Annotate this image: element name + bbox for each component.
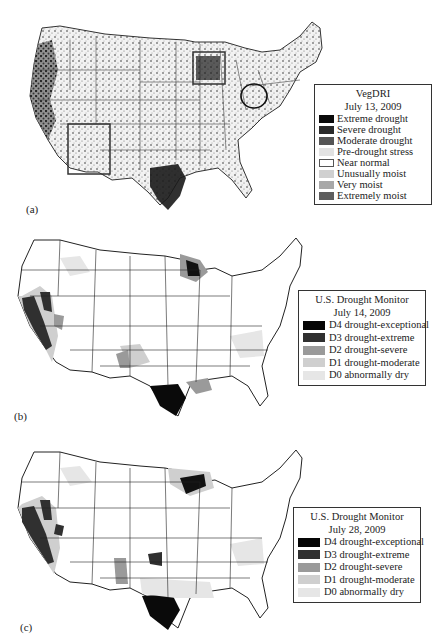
panel-c-drought-monitor-map: (c) U.S. Drought Monitor July 28, 2009 D… xyxy=(0,438,435,639)
legend-swatch xyxy=(298,550,320,559)
panel-label-a: (a) xyxy=(26,203,38,215)
legend-item: D4 drought-exceptional xyxy=(298,536,416,549)
legend-item: Extreme drought xyxy=(319,113,427,124)
legend-title: U.S. Drought Monitor xyxy=(303,293,421,306)
legend-item: D3 drought-extreme xyxy=(303,332,421,345)
legend-item: Near normal xyxy=(319,157,427,168)
legend-item: D0 abnormally dry xyxy=(303,369,421,382)
panel-a-vegdri-map: (a) VegDRI July 13, 2009 Extreme drought… xyxy=(0,0,435,218)
legend-swatch xyxy=(303,333,325,342)
legend-item: D1 drought-moderate xyxy=(298,574,416,587)
legend-drought-monitor-c: U.S. Drought Monitor July 28, 2009 D4 dr… xyxy=(293,507,421,603)
legend-title: U.S. Drought Monitor xyxy=(298,510,416,523)
legend-swatch xyxy=(303,371,325,380)
legend-swatch xyxy=(319,115,334,123)
legend-swatch xyxy=(303,358,325,367)
legend-swatch xyxy=(303,321,325,330)
legend-item: D1 drought-moderate xyxy=(303,357,421,370)
legend-item: Moderate drought xyxy=(319,135,427,146)
legend-item: Very moist xyxy=(319,179,427,190)
panel-label-b: (b) xyxy=(14,410,27,422)
legend-swatch xyxy=(319,126,334,134)
legend-swatch xyxy=(319,159,334,167)
legend-vegdri: VegDRI July 13, 2009 Extreme drought Sev… xyxy=(314,84,432,205)
legend-title: VegDRI xyxy=(319,87,427,100)
legend-item: Severe drought xyxy=(319,124,427,135)
legend-swatch xyxy=(298,588,320,597)
legend-item: Unusually moist xyxy=(319,168,427,179)
legend-item: Pre-drought stress xyxy=(319,146,427,157)
panel-label-c: (c) xyxy=(20,621,32,633)
legend-item: D4 drought-exceptional xyxy=(303,319,421,332)
legend-swatch xyxy=(298,563,320,572)
legend-item: D0 abnormally dry xyxy=(298,586,416,599)
legend-item: D3 drought-extreme xyxy=(298,549,416,562)
legend-swatch xyxy=(319,192,334,200)
legend-swatch xyxy=(319,181,334,189)
legend-item: D2 drought-severe xyxy=(298,561,416,574)
legend-date: July 13, 2009 xyxy=(319,100,427,113)
legend-date: July 14, 2009 xyxy=(303,306,421,319)
legend-swatch xyxy=(303,346,325,355)
legend-swatch xyxy=(319,137,334,145)
legend-date: July 28, 2009 xyxy=(298,523,416,536)
legend-swatch xyxy=(298,538,320,547)
legend-swatch xyxy=(298,575,320,584)
legend-swatch xyxy=(319,170,334,178)
legend-drought-monitor-b: U.S. Drought Monitor July 14, 2009 D4 dr… xyxy=(298,290,426,386)
legend-swatch xyxy=(319,148,334,156)
legend-item: Extremely moist xyxy=(319,190,427,201)
panel-b-drought-monitor-map: (b) U.S. Drought Monitor July 14, 2009 D… xyxy=(0,226,435,426)
legend-item: D2 drought-severe xyxy=(303,344,421,357)
